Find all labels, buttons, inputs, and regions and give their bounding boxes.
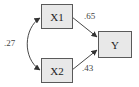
correlation-arrow-x1-x2	[27, 18, 40, 70]
node-x2-label: X2	[50, 65, 63, 77]
node-x2: X2	[42, 59, 73, 83]
node-y: Y	[99, 32, 132, 58]
path-diagram: .27 .65 .43 X1 X2 Y	[0, 0, 139, 87]
path-label-x2-y: .43	[82, 63, 94, 73]
correlation-label: .27	[4, 38, 16, 48]
node-x1-label: X1	[50, 11, 63, 23]
path-label-x1-y: .65	[84, 11, 96, 21]
node-y-label: Y	[111, 39, 119, 51]
node-x1: X1	[42, 5, 73, 29]
